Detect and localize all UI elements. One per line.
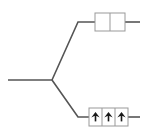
diagram-canvas (0, 0, 147, 133)
lower-branch-line (52, 80, 89, 117)
branch-lines-group (8, 22, 140, 117)
upper-branch-line (52, 22, 95, 80)
diagram-svg (0, 0, 147, 133)
lower-node-box[interactable] (89, 108, 128, 126)
upper-node-box[interactable] (95, 13, 125, 31)
